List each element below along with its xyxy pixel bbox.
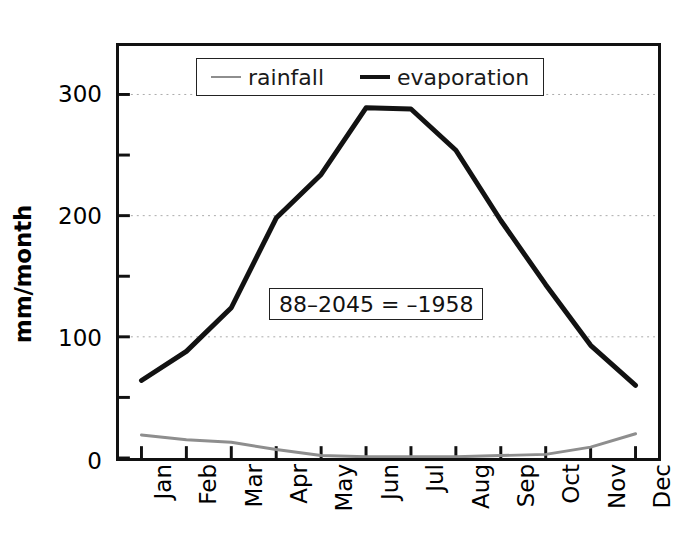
plot-area bbox=[116, 43, 661, 461]
chart-page: mm/month 0 100 200 300 JanFebMarAprMayJu… bbox=[0, 0, 679, 548]
legend-entry-rainfall: rainfall bbox=[211, 65, 324, 90]
legend-label-evaporation: evaporation bbox=[397, 65, 529, 90]
x-tick-label-feb: Feb bbox=[195, 464, 221, 544]
legend-line-icon-rainfall bbox=[211, 76, 241, 78]
x-tick-label-oct: Oct bbox=[558, 464, 584, 544]
x-tick-label-may: May bbox=[331, 464, 357, 544]
x-tick-label-aug: Aug bbox=[468, 464, 494, 544]
legend-label-rainfall: rainfall bbox=[248, 65, 324, 90]
y-tick-label-300: 300 bbox=[0, 81, 110, 107]
y-tick-label-100: 100 bbox=[0, 325, 110, 351]
x-tick-label-jan: Jan bbox=[150, 464, 176, 544]
chart-legend: rainfall evaporation bbox=[196, 58, 544, 96]
x-tick-label-dec: Dec bbox=[649, 464, 675, 544]
y-tick-label-0: 0 bbox=[0, 448, 110, 474]
series-line-evaporation bbox=[141, 108, 635, 385]
y-axis-minor-ticks bbox=[119, 155, 130, 397]
legend-entry-evaporation: evaporation bbox=[360, 65, 529, 90]
x-axis-tick-labels: JanFebMarAprMayJunJulAugSepOctNovDec bbox=[116, 464, 661, 548]
series-line-rainfall bbox=[141, 434, 635, 457]
legend-line-icon-evaporation bbox=[360, 75, 390, 79]
x-tick-label-sep: Sep bbox=[513, 464, 539, 544]
x-tick-label-jun: Jun bbox=[377, 464, 403, 544]
annotation-box: 88–2045 = –1958 bbox=[269, 288, 483, 320]
x-tick-label-nov: Nov bbox=[604, 464, 630, 544]
x-tick-label-jul: Jul bbox=[422, 464, 448, 544]
chart-canvas bbox=[119, 46, 658, 458]
y-axis-tick-labels: 0 100 200 300 bbox=[0, 0, 110, 548]
y-tick-label-200: 200 bbox=[0, 203, 110, 229]
x-tick-label-mar: Mar bbox=[241, 464, 267, 544]
x-tick-label-apr: Apr bbox=[286, 464, 312, 544]
